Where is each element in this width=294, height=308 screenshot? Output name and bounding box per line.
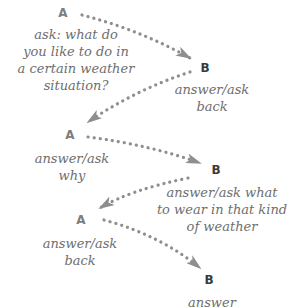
conversation-flow-diagram: A ask: what do you like to do in a certa… — [0, 0, 294, 308]
step-3-caption: answer/ask why — [35, 150, 110, 184]
caption-line: answer/ask — [175, 81, 250, 98]
step-1-caption: ask: what do you like to do in a certain… — [18, 26, 135, 94]
caption-line: back — [43, 252, 118, 269]
caption-line: answer/ask — [43, 235, 118, 252]
caption-line: situation? — [18, 77, 135, 94]
caption-line: why — [35, 167, 110, 184]
step-4-caption: answer/ask what to wear in that kind of … — [157, 184, 287, 235]
step-6-caption: answer — [188, 294, 236, 308]
caption-line: answer/ask what — [157, 184, 287, 201]
caption-line: to wear in that kind — [157, 201, 287, 218]
caption-line: answer — [188, 294, 236, 308]
step-5-caption: answer/ask back — [43, 235, 118, 269]
caption-line: a certain weather — [18, 60, 135, 77]
speaker-b-label: B — [200, 62, 209, 74]
caption-line: you like to do in — [18, 43, 135, 60]
speaker-b-label: B — [211, 164, 220, 176]
caption-line: back — [175, 98, 250, 115]
caption-line: ask: what do — [18, 26, 135, 43]
step-2-caption: answer/ask back — [175, 81, 250, 115]
caption-line: of weather — [157, 218, 287, 235]
speaker-a-label: A — [76, 214, 85, 226]
speaker-a-label: A — [58, 7, 67, 19]
speaker-b-label: B — [204, 274, 213, 286]
speaker-a-label: A — [65, 129, 74, 141]
caption-line: answer/ask — [35, 150, 110, 167]
